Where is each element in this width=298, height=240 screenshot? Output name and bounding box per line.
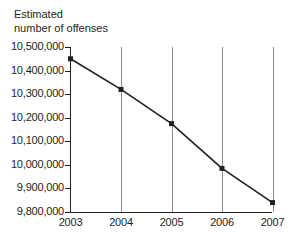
x-tick-label: 2003 (49, 217, 93, 228)
y-tick-label: 10,100,000 (0, 135, 64, 146)
axes-group (70, 47, 272, 213)
y-tick-label: 10,400,000 (0, 65, 64, 76)
x-tick-label: 2006 (200, 217, 244, 228)
y-tick-label: 9,800,000 (0, 206, 64, 217)
y-tick-label: 10,000,000 (0, 159, 64, 170)
data-series-line (71, 59, 273, 203)
data-point-marker (220, 166, 225, 171)
chart-figure: Estimated number of offenses 10,500,0001… (0, 0, 298, 240)
y-tick-label: 10,500,000 (0, 41, 64, 52)
y-tick-label: 9,900,000 (0, 182, 64, 193)
y-tick-label: 10,200,000 (0, 112, 64, 123)
y-tick-marks-group (65, 48, 71, 213)
x-tick-label: 2004 (99, 217, 143, 228)
x-tick-label: 2005 (150, 217, 194, 228)
data-point-marker (270, 200, 275, 205)
x-tick-label: 2007 (251, 217, 295, 228)
data-point-marker (68, 56, 73, 61)
y-tick-label: 10,300,000 (0, 88, 64, 99)
data-point-marker (169, 121, 174, 126)
data-point-marker (119, 87, 124, 92)
